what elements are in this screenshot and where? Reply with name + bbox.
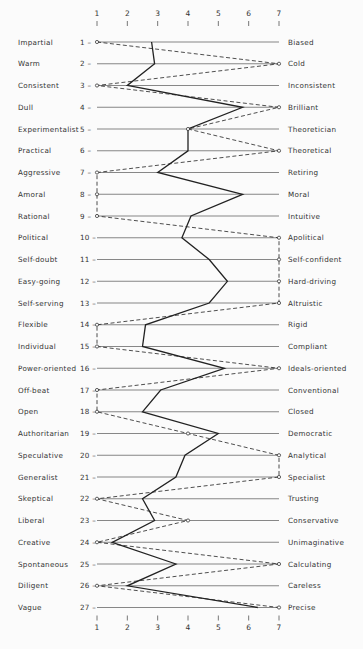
item-number: 24 – <box>80 538 96 547</box>
item-number: 7 – <box>80 168 91 177</box>
item-number: 22 – <box>80 494 96 503</box>
item-number: 18 – <box>80 407 96 416</box>
item-number: 1 – <box>80 38 91 47</box>
left-pole-label: Consistent <box>18 81 59 90</box>
left-pole-label: Power-oriented <box>18 364 76 373</box>
right-pole-label: Precise <box>288 603 316 612</box>
item-number: 11 – <box>80 255 96 264</box>
right-pole-label: Analytical <box>288 451 326 460</box>
item-number: 5 – <box>80 125 91 134</box>
right-pole-label: Calculating <box>288 560 332 569</box>
left-pole-label: Political <box>18 233 48 242</box>
bottom-tick-label: 7 <box>277 623 282 632</box>
right-pole-label: Unimaginative <box>288 538 344 547</box>
profile-point-marker <box>277 454 280 457</box>
item-row: Rational9 –Intuitive <box>18 212 321 221</box>
left-pole-label: Rational <box>18 212 50 221</box>
item-number: 25 – <box>80 560 96 569</box>
profile-point-marker <box>277 236 280 239</box>
left-pole-label: Open <box>18 407 38 416</box>
bottom-tick-label: 5 <box>216 623 221 632</box>
profile-point-marker <box>277 62 280 65</box>
left-pole-label: Vague <box>18 603 42 612</box>
item-number: 14 – <box>80 320 96 329</box>
profile-point-marker <box>277 562 280 565</box>
right-pole-label: Apolitical <box>288 233 324 242</box>
left-pole-label: Flexible <box>18 320 48 329</box>
bottom-tick-label: 1 <box>95 623 100 632</box>
profile-point-marker <box>277 258 280 261</box>
profile-point-marker <box>95 345 98 348</box>
left-pole-label: Practical <box>18 146 51 155</box>
right-pole-label: Biased <box>288 38 314 47</box>
profile-point-marker <box>277 301 280 304</box>
top-axis: 1234567 <box>95 9 282 26</box>
item-row: Impartial1 –Biased <box>18 38 314 47</box>
top-tick-label: 6 <box>246 9 251 18</box>
item-row: Warm2 –Cold <box>18 59 305 68</box>
item-number: 17 – <box>80 386 96 395</box>
profile-point-marker <box>277 149 280 152</box>
profile-point-marker <box>95 193 98 196</box>
profile-point-marker <box>277 606 280 609</box>
left-pole-label: Skeptical <box>18 494 53 503</box>
item-row: Skeptical22 –Trusting <box>18 494 319 503</box>
right-pole-label: Theoretical <box>287 146 331 155</box>
item-number: 6 – <box>80 146 91 155</box>
item-number: 16 – <box>80 364 96 373</box>
item-number: 20 – <box>80 451 96 460</box>
item-number: 2 – <box>80 59 91 68</box>
profile-point-marker <box>95 497 98 500</box>
left-pole-label: Creative <box>18 538 51 547</box>
left-pole-label: Dull <box>18 103 33 112</box>
right-pole-label: Altruistic <box>288 299 323 308</box>
item-row: Off-beat17 –Conventional <box>18 386 339 395</box>
item-row: Consistent3 –Inconsistent <box>18 81 335 90</box>
left-pole-label: Impartial <box>18 38 53 47</box>
right-pole-label: Conservative <box>288 516 339 525</box>
right-pole-label: Closed <box>288 407 314 416</box>
left-pole-label: Authoritarian <box>18 429 69 438</box>
profile-point-marker <box>95 323 98 326</box>
right-pole-label: Moral <box>288 190 309 199</box>
bottom-tick-label: 3 <box>155 623 160 632</box>
right-pole-label: Self-confident <box>288 255 342 264</box>
top-tick-label: 4 <box>186 9 191 18</box>
item-row: Vague27 –Precise <box>18 603 316 612</box>
left-pole-label: Diligent <box>18 581 48 590</box>
left-pole-label: Spontaneous <box>18 560 68 569</box>
item-number: 3 – <box>80 81 91 90</box>
profile-point-marker <box>277 475 280 478</box>
bottom-tick-label: 2 <box>125 623 130 632</box>
left-pole-label: Self-serving <box>18 299 64 308</box>
profile-point-marker <box>186 519 189 522</box>
left-pole-label: Liberal <box>18 516 44 525</box>
item-row: Self-doubt11 –Self-confident <box>18 255 342 264</box>
right-pole-label: Ideals-oriented <box>288 364 347 373</box>
item-rows: Impartial1 –BiasedWarm2 –ColdConsistent3… <box>18 38 347 613</box>
item-number: 23 – <box>80 516 96 525</box>
right-pole-label: Hard-driving <box>288 277 336 286</box>
item-row: Diligent26 –Careless <box>18 581 321 590</box>
left-pole-label: Easy-going <box>18 277 61 286</box>
bottom-tick-label: 6 <box>246 623 251 632</box>
profile-point-marker <box>95 214 98 217</box>
profile-point-marker <box>95 388 98 391</box>
item-number: 12 – <box>80 277 96 286</box>
right-pole-label: Cold <box>288 59 305 68</box>
left-pole-label: Experimentalist <box>18 125 79 134</box>
item-number: 8 – <box>80 190 91 199</box>
item-row: Experimentalist5 –Theoretician <box>18 125 336 134</box>
item-number: 19 – <box>80 429 96 438</box>
profile-point-marker <box>95 410 98 413</box>
left-pole-label: Warm <box>18 59 40 68</box>
item-number: 27 – <box>80 603 96 612</box>
item-row: Open18 –Closed <box>18 407 314 416</box>
right-pole-label: Theoretician <box>287 125 336 134</box>
top-tick-label: 2 <box>125 9 130 18</box>
item-row: Dull4 –Brilliant <box>18 103 318 112</box>
profile-point-marker <box>95 40 98 43</box>
semantic-differential-chart: 1234567 Impartial1 –BiasedWarm2 –ColdCon… <box>0 0 363 649</box>
bottom-tick-label: 4 <box>186 623 191 632</box>
profile-point-marker <box>95 84 98 87</box>
